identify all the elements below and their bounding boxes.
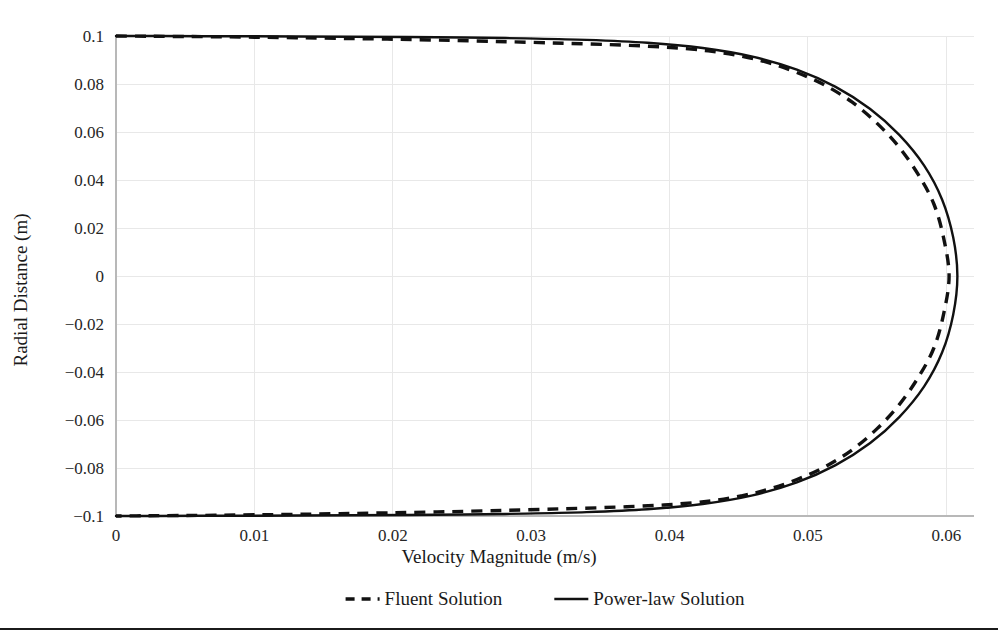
y-axis-title: Radial Distance (m) <box>10 213 32 366</box>
x-tick-label: 0.04 <box>655 526 685 545</box>
y-tick-label: 0.08 <box>74 75 104 94</box>
x-tick-label: 0.01 <box>240 526 270 545</box>
y-tick-label: 0.02 <box>74 219 104 238</box>
y-tick-label: −0.08 <box>65 459 104 478</box>
y-tick-label: −0.1 <box>73 507 104 526</box>
x-tick-label: 0.05 <box>793 526 823 545</box>
x-tick-label: 0.02 <box>378 526 408 545</box>
y-tick-label: 0.06 <box>74 123 104 142</box>
y-tick-label: 0.04 <box>74 171 104 190</box>
y-tick-label: −0.02 <box>65 315 104 334</box>
x-axis-title: Velocity Magnitude (m/s) <box>401 546 596 568</box>
y-tick-label: −0.06 <box>65 411 104 430</box>
x-tick-label: 0 <box>112 526 121 545</box>
y-tick-label: 0 <box>96 267 105 286</box>
velocity-profile-chart: 00.010.020.030.040.050.06 0.10.080.060.0… <box>0 0 998 640</box>
legend-label-fluent-solution: Fluent Solution <box>385 588 503 609</box>
y-tick-label: −0.04 <box>65 363 105 382</box>
y-tick-label: 0.1 <box>83 27 104 46</box>
x-tick-label: 0.03 <box>516 526 546 545</box>
figure-container: 00.010.020.030.040.050.06 0.10.080.060.0… <box>0 0 998 640</box>
legend-label-power-law-solution: Power-law Solution <box>593 588 745 609</box>
chart-background <box>0 0 998 640</box>
x-tick-label: 0.06 <box>931 526 961 545</box>
